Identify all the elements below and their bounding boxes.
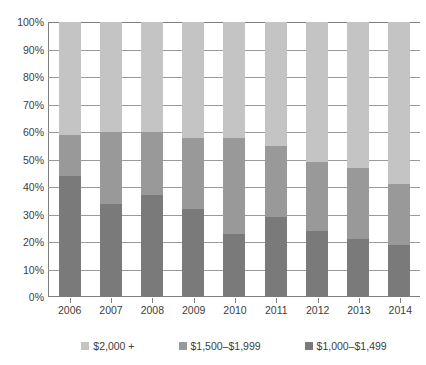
x-axis-tick-label: 2014 xyxy=(380,305,421,316)
bar-column xyxy=(296,22,337,297)
bar-segment xyxy=(223,22,245,138)
bar-segment xyxy=(347,22,369,168)
bar-column xyxy=(379,22,420,297)
bar-segment xyxy=(265,146,287,218)
x-axis-tick: 2008 xyxy=(132,298,173,320)
bar-segment xyxy=(100,132,122,204)
x-axis-tick: 2007 xyxy=(90,298,131,320)
y-axis-tick-label: 0% xyxy=(4,292,44,303)
x-tick-mark xyxy=(318,298,319,303)
bar-column xyxy=(338,22,379,297)
stacked-bar xyxy=(347,22,369,297)
x-axis-tick: 2009 xyxy=(173,298,214,320)
x-axis-tick: 2006 xyxy=(49,298,90,320)
bar-column xyxy=(214,22,255,297)
y-axis-tick-label: 100% xyxy=(4,17,44,28)
bar-segment xyxy=(388,184,410,245)
bar-segment xyxy=(223,234,245,297)
bar-segment xyxy=(388,22,410,184)
x-tick-mark xyxy=(235,298,236,303)
x-axis-tick-label: 2013 xyxy=(338,305,379,316)
x-axis-tick: 2012 xyxy=(297,298,338,320)
y-axis-tick-label: 50% xyxy=(4,154,44,165)
stacked-bar xyxy=(306,22,328,297)
bar-column xyxy=(173,22,214,297)
stacked-bar xyxy=(223,22,245,297)
legend-swatch-icon xyxy=(179,342,187,350)
plot-area xyxy=(48,22,420,297)
x-tick-mark xyxy=(400,298,401,303)
stacked-bar xyxy=(388,22,410,297)
bar-segment xyxy=(265,22,287,146)
bar-segment xyxy=(59,135,81,176)
stacked-bar xyxy=(59,22,81,297)
bar-group xyxy=(49,22,420,297)
x-axis-tick-label: 2008 xyxy=(132,305,173,316)
legend-item: $1,500–$1,999 xyxy=(179,338,261,354)
legend-label: $1,500–$1,999 xyxy=(191,341,261,352)
bar-segment xyxy=(388,245,410,297)
bar-segment xyxy=(223,138,245,234)
x-axis-tick: 2014 xyxy=(380,298,421,320)
legend-item: $1,000–$1,499 xyxy=(305,338,387,354)
x-axis-tick-label: 2009 xyxy=(173,305,214,316)
bar-segment xyxy=(265,217,287,297)
x-axis-tick: 2010 xyxy=(214,298,255,320)
x-tick-mark xyxy=(276,298,277,303)
x-tick-mark xyxy=(70,298,71,303)
y-axis-tick-label: 90% xyxy=(4,44,44,55)
bar-column xyxy=(255,22,296,297)
stacked-bar xyxy=(265,22,287,297)
bar-segment xyxy=(141,22,163,132)
x-axis-tick-label: 2010 xyxy=(214,305,255,316)
bar-segment xyxy=(59,22,81,135)
bar-segment xyxy=(182,138,204,210)
stacked-bar xyxy=(100,22,122,297)
legend-swatch-icon xyxy=(305,342,313,350)
legend-label: $2,000 + xyxy=(93,341,134,352)
bar-segment xyxy=(306,22,328,162)
bar-segment xyxy=(182,209,204,297)
bar-segment xyxy=(182,22,204,138)
legend-swatch-icon xyxy=(81,342,89,350)
bar-segment xyxy=(347,239,369,297)
x-tick-mark xyxy=(152,298,153,303)
bar-segment xyxy=(59,176,81,297)
x-axis-tick-label: 2006 xyxy=(49,305,90,316)
y-axis: 0%10%20%30%40%50%60%70%80%90%100% xyxy=(0,22,44,297)
legend-label: $1,000–$1,499 xyxy=(317,341,387,352)
y-axis-tick-label: 10% xyxy=(4,264,44,275)
bar-segment xyxy=(306,162,328,231)
x-tick-mark xyxy=(194,298,195,303)
y-axis-tick-label: 20% xyxy=(4,237,44,248)
bar-segment xyxy=(306,231,328,297)
stacked-bar-chart: 0%10%20%30%40%50%60%70%80%90%100% 200620… xyxy=(0,0,426,365)
x-axis-tick-label: 2007 xyxy=(90,305,131,316)
legend-item: $2,000 + xyxy=(81,338,134,354)
y-axis-tick-label: 40% xyxy=(4,182,44,193)
chart-legend: $2,000 +$1,500–$1,999$1,000–$1,499 xyxy=(48,338,420,354)
bar-segment xyxy=(100,204,122,298)
bar-column xyxy=(131,22,172,297)
y-axis-tick-label: 70% xyxy=(4,99,44,110)
y-axis-tick-label: 80% xyxy=(4,72,44,83)
bar-column xyxy=(90,22,131,297)
bar-segment xyxy=(141,132,163,195)
y-axis-tick-label: 30% xyxy=(4,209,44,220)
x-axis: 200620072008200920102011201220132014 xyxy=(49,298,421,320)
bar-segment xyxy=(347,168,369,240)
x-axis-tick-label: 2012 xyxy=(297,305,338,316)
x-axis-tick-label: 2011 xyxy=(256,305,297,316)
x-tick-mark xyxy=(111,298,112,303)
y-axis-tick-label: 60% xyxy=(4,127,44,138)
bar-segment xyxy=(141,195,163,297)
x-tick-mark xyxy=(359,298,360,303)
x-axis-tick: 2013 xyxy=(338,298,379,320)
bar-segment xyxy=(100,22,122,132)
bar-column xyxy=(49,22,90,297)
x-axis-tick: 2011 xyxy=(256,298,297,320)
stacked-bar xyxy=(182,22,204,297)
stacked-bar xyxy=(141,22,163,297)
